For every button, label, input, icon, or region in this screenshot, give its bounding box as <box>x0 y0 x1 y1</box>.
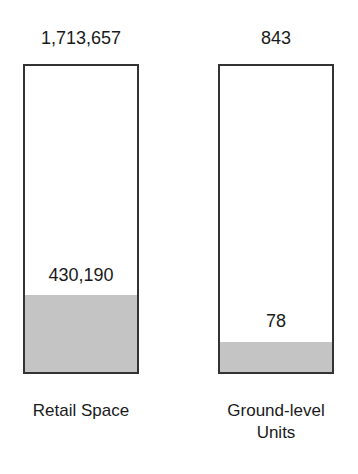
label-line-1: Ground-level <box>198 400 354 422</box>
total-value: 843 <box>218 28 334 49</box>
category-label: Ground-level Units <box>198 400 354 444</box>
total-box: 78 <box>218 64 334 374</box>
part-value: 430,190 <box>25 265 137 286</box>
category-label: Retail Space <box>3 400 159 422</box>
part-value: 78 <box>220 311 332 332</box>
total-box: 430,190 <box>23 64 139 374</box>
part-fill <box>25 295 137 372</box>
total-value: 1,713,657 <box>23 28 139 49</box>
label-line-2: Units <box>198 422 354 444</box>
part-fill <box>220 342 332 372</box>
label-line-1: Retail Space <box>3 400 159 422</box>
